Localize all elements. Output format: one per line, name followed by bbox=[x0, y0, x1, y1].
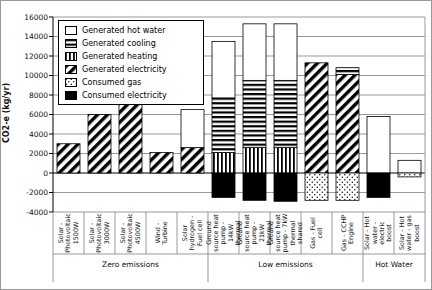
legend-item: Generated electricity bbox=[65, 63, 199, 76]
bar-segment-hot_water bbox=[398, 160, 421, 173]
legend-swatch-horizontal-stripes-icon bbox=[65, 39, 77, 48]
legend-swatch-white-icon bbox=[65, 26, 77, 35]
category-label: Solar - Photovoltaic 4500W bbox=[116, 212, 146, 254]
bar-segment-electricity bbox=[305, 63, 328, 173]
group-label: Hot Water bbox=[363, 260, 425, 269]
bar-segment-electricity bbox=[88, 115, 111, 174]
legend-label: Consumed electricity bbox=[82, 91, 167, 100]
bar-segment-consumed_electricity bbox=[274, 173, 297, 201]
bar-segment-cooling bbox=[212, 98, 235, 153]
group-label: Zero emissions bbox=[53, 260, 208, 269]
legend: Generated hot waterGenerated coolingGene… bbox=[58, 20, 204, 105]
bar-segment-cooling bbox=[336, 68, 359, 75]
category-label: Solar hydrogen - Fuel cell bbox=[178, 212, 208, 254]
legend-item: Consumed gas bbox=[65, 76, 199, 89]
y-tick-label: 0 bbox=[1, 169, 48, 178]
y-tick-label: 14000 bbox=[1, 32, 48, 41]
legend-label: Consumed gas bbox=[82, 78, 141, 87]
category-label: Solar - Photovoltaic 1500W bbox=[54, 212, 84, 254]
legend-swatch-rect bbox=[66, 66, 77, 74]
y-tick-label: 16000 bbox=[1, 13, 48, 22]
category-label: Solar - Hot water - electric boost bbox=[364, 212, 394, 254]
bar-segment-electricity bbox=[181, 148, 204, 173]
bar-segment-heating bbox=[243, 148, 266, 173]
bar-segment-gas bbox=[398, 173, 421, 177]
legend-swatch-rect bbox=[66, 92, 77, 100]
legend-label: Generated cooling bbox=[82, 39, 156, 48]
category-label: Ground source heat pump - 7kW thermal sh… bbox=[271, 212, 301, 254]
y-tick-label: -4000 bbox=[1, 208, 48, 217]
legend-swatch-dots-icon bbox=[65, 78, 77, 87]
legend-label: Generated heating bbox=[82, 52, 157, 61]
legend-swatch-vertical-stripes-icon bbox=[65, 52, 77, 61]
y-axis-title: CO2-e (kg/yr) bbox=[2, 58, 16, 168]
bar-segment-cooling bbox=[243, 80, 266, 147]
legend-swatch-rect bbox=[66, 79, 77, 87]
chart-figure: 1600014000120001000080006000400020000-20… bbox=[0, 0, 432, 290]
category-label: Ground source heat pump - 14kW thermal bbox=[209, 212, 239, 254]
category-label: Ground source heat pump - 21kW thermal bbox=[240, 212, 270, 254]
legend-swatch-diagonal-stripes-icon bbox=[65, 65, 77, 74]
category-label: Solar - Photovoltaic 3000W bbox=[85, 212, 115, 254]
bar-segment-electricity bbox=[57, 144, 80, 173]
bar-segment-hot_water bbox=[243, 24, 266, 81]
bar-segment-electricity bbox=[150, 153, 173, 173]
group-label: Low emissions bbox=[208, 260, 363, 269]
legend-swatch-rect bbox=[66, 40, 77, 48]
bar-segment-cooling bbox=[274, 80, 297, 147]
legend-item: Consumed electricity bbox=[65, 89, 199, 102]
bar-segment-heating bbox=[212, 153, 235, 173]
bar-segment-hot_water bbox=[367, 116, 390, 173]
legend-label: Generated hot water bbox=[82, 26, 165, 35]
bar-segment-heating bbox=[274, 148, 297, 173]
bar-segment-consumed_electricity bbox=[243, 173, 266, 200]
category-label: Wind - Turbine bbox=[147, 212, 177, 254]
category-label: Solar - Hot water - gas boost bbox=[395, 212, 425, 254]
legend-item: Generated hot water bbox=[65, 24, 199, 37]
y-tick-label: -2000 bbox=[1, 188, 48, 197]
bar-segment-hot_water bbox=[181, 110, 204, 148]
bar-segment-hot_water bbox=[212, 41, 235, 98]
category-label: Gas - CCHP Engine bbox=[333, 212, 363, 254]
legend-swatch-rect bbox=[66, 27, 77, 35]
bar-segment-consumed_electricity bbox=[367, 173, 390, 197]
legend-label: Generated electricity bbox=[82, 65, 167, 74]
bar-segment-gas bbox=[336, 173, 359, 200]
bar-segment-consumed_electricity bbox=[212, 173, 235, 197]
legend-swatch-rect bbox=[66, 53, 77, 61]
legend-item: Generated heating bbox=[65, 50, 199, 63]
category-label: Gas - Fuel cell bbox=[302, 212, 332, 254]
legend-swatch-solid-black-icon bbox=[65, 91, 77, 100]
bar-segment-electricity bbox=[336, 75, 359, 173]
bar-segment-gas bbox=[305, 173, 328, 200]
bar-segment-hot_water bbox=[274, 24, 297, 81]
legend-item: Generated cooling bbox=[65, 37, 199, 50]
